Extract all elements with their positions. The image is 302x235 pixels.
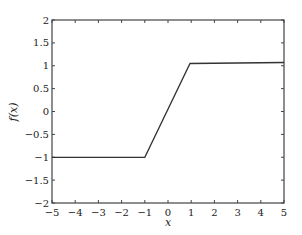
x-axis-label: x (165, 216, 172, 229)
x-tick-label: 4 (258, 207, 264, 218)
x-tick-label: −3 (91, 207, 106, 218)
plot-border (52, 20, 284, 203)
y-tick-label: −0.5 (25, 129, 49, 140)
y-tick-label: −1.5 (25, 175, 49, 186)
x-tick-label: 1 (188, 207, 194, 218)
y-tick-label: 0 (43, 106, 49, 117)
y-tick-label: −1 (34, 152, 49, 163)
y-tick-label: 0.5 (33, 83, 49, 94)
series-line (52, 63, 284, 158)
y-axis: −2−1.5−1−0.500.511.52 (25, 15, 284, 209)
y-tick-label: 2 (43, 15, 49, 26)
x-tick-label: −2 (114, 207, 129, 218)
y-axis-label: f(x) (7, 103, 20, 123)
x-tick-label: −1 (137, 207, 152, 218)
x-tick-label: 2 (211, 207, 217, 218)
y-tick-label: −2 (34, 198, 49, 209)
x-tick-label: 5 (281, 207, 287, 218)
x-tick-label: −4 (68, 207, 83, 218)
plot-area (52, 20, 284, 203)
x-tick-label: 3 (234, 207, 240, 218)
line-chart: −5−4−3−2−1012345 −2−1.5−1−0.500.511.52 x… (0, 0, 302, 235)
x-tick-label: −5 (45, 207, 60, 218)
y-tick-label: 1 (43, 60, 49, 71)
y-tick-label: 1.5 (33, 37, 49, 48)
data-series (52, 63, 284, 158)
x-axis: −5−4−3−2−1012345 (45, 20, 288, 218)
